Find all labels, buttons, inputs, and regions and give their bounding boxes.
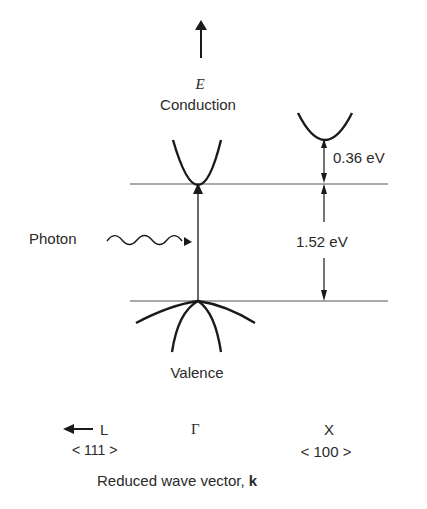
photon-transition-arrow-icon bbox=[193, 183, 203, 301]
k-point-gamma-label: Γ bbox=[191, 421, 200, 437]
band-structure-diagram: E Conduction Photon 0.36 eV 1.52 eV Vale… bbox=[0, 0, 427, 509]
conduction-band-x-curve bbox=[298, 113, 352, 140]
x-axis-title-text: Reduced wave vector, bbox=[97, 472, 249, 489]
x-axis-symbol: k bbox=[249, 472, 258, 489]
conduction-band-label: Conduction bbox=[160, 96, 236, 113]
x-offset-energy-label: 0.36 eV bbox=[333, 149, 385, 166]
photon-label: Photon bbox=[29, 230, 77, 247]
l-direction-arrow-icon bbox=[63, 424, 93, 434]
photon-wave-icon bbox=[107, 236, 192, 247]
k-point-l-label: L bbox=[100, 421, 108, 438]
valence-band-curves bbox=[136, 301, 255, 352]
x-offset-dimension-arrow-icon bbox=[321, 139, 327, 183]
energy-axis-arrow-icon bbox=[195, 20, 207, 58]
k-point-x-label: X bbox=[324, 421, 334, 438]
k-direction-100-label: < 100 > bbox=[301, 443, 352, 460]
k-direction-111-label: < 111 > bbox=[72, 442, 117, 458]
band-gap-energy-label: 1.52 eV bbox=[296, 233, 348, 250]
conduction-band-gamma-curve bbox=[173, 140, 221, 185]
x-axis-title: Reduced wave vector, k bbox=[97, 472, 258, 489]
energy-axis-label: E bbox=[194, 76, 204, 92]
valence-band-label: Valence bbox=[170, 364, 223, 381]
